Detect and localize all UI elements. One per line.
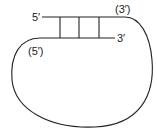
label-5prime-paren: (5′) (28, 45, 44, 57)
label-3prime-paren: (3′) (115, 3, 131, 15)
label-3prime: 3′ (117, 32, 125, 44)
label-5prime-top: 5′ (32, 11, 40, 23)
loop-strand (12, 17, 153, 127)
strand-diagram: 5′ (3′) 3′ (5′) (0, 0, 157, 133)
